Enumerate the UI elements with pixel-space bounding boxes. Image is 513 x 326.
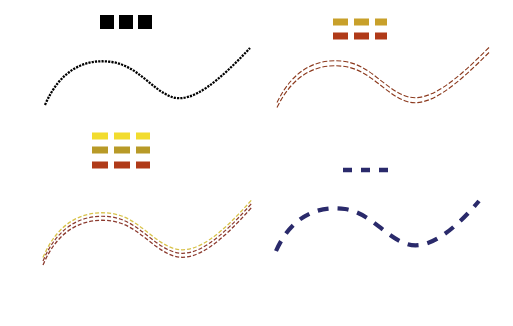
series-group-bl bbox=[43, 200, 252, 266]
top-right-panel[interactable] bbox=[257, 0, 513, 163]
series-group-br bbox=[276, 201, 479, 251]
figure-canvas bbox=[0, 0, 513, 326]
series-gold-dashed-curve bbox=[277, 48, 489, 103]
bottom-right-plot-area bbox=[257, 163, 513, 326]
series-navy-dashed-curve bbox=[276, 201, 479, 251]
bottom-left-panel[interactable] bbox=[0, 163, 257, 326]
series-brick-dashed-curve bbox=[277, 53, 489, 108]
legend-group-tr bbox=[333, 22, 387, 36]
top-right-plot-area bbox=[257, 0, 513, 163]
series-group-tr bbox=[277, 48, 489, 108]
series-group-tl bbox=[45, 48, 250, 105]
series-black-sine-curve bbox=[45, 48, 250, 105]
series-pale-yellow-curve bbox=[43, 200, 252, 258]
bottom-right-panel[interactable] bbox=[257, 163, 513, 326]
bottom-left-plot-area bbox=[0, 163, 257, 326]
